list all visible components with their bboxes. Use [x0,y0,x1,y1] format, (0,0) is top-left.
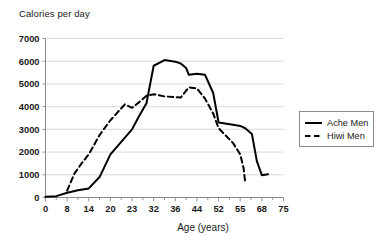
svg-text:4000: 4000 [19,102,40,112]
svg-text:20: 20 [105,204,115,214]
svg-text:14: 14 [84,204,95,214]
svg-text:1000: 1000 [19,170,40,180]
chart-legend: Ache Men Hiwi Men [299,111,374,147]
series-ache-men [46,60,269,197]
legend-item-hiwi-men: Hiwi Men [304,129,368,142]
x-axis-label-wrap: Age (years) [0,222,384,233]
svg-text:36: 36 [170,204,180,214]
series-hiwi-men [67,87,245,190]
x-axis-label: Age (years) [155,222,229,233]
legend-swatch-solid-icon [304,118,323,128]
svg-text:23: 23 [127,204,137,214]
legend-label-hiwi-men: Hiwi Men [327,131,365,141]
gridlines-group [46,39,284,175]
svg-text:5000: 5000 [19,79,40,89]
legend-label-ache-men: Ache Men [327,118,368,128]
svg-text:68: 68 [257,204,267,214]
svg-text:0: 0 [43,204,48,214]
svg-text:32: 32 [149,204,159,214]
svg-text:3000: 3000 [19,125,40,135]
svg-text:0: 0 [34,193,39,203]
y-axis-ticks: 01000200030004000500060007000 [19,34,46,203]
svg-text:44: 44 [192,204,203,214]
legend-swatch-dashed-icon [304,131,323,141]
svg-text:6000: 6000 [19,57,40,67]
svg-text:8: 8 [65,204,70,214]
x-axis-ticks: 0814202332364452556875 [43,198,289,215]
data-series-group [46,60,269,197]
svg-text:75: 75 [278,204,288,214]
svg-text:55: 55 [235,204,245,214]
svg-text:7000: 7000 [19,34,40,44]
legend-item-ache-men: Ache Men [304,116,368,129]
axis-lines [46,39,284,198]
svg-text:52: 52 [213,204,223,214]
svg-text:2000: 2000 [19,147,40,157]
